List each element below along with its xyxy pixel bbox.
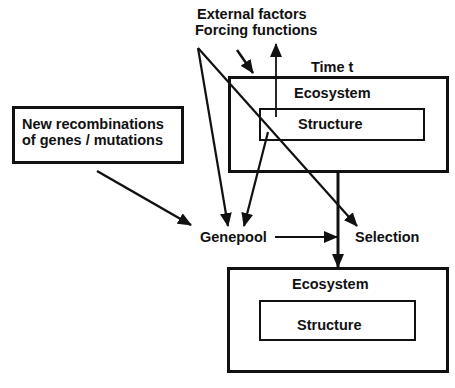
forcing-functions-label: Forcing functions (195, 22, 317, 38)
connector-lines (0, 0, 455, 388)
external-factors-label: External factors (197, 6, 307, 22)
structure-label-time-t: Structure (298, 116, 362, 132)
forcing-into-ecosystem-arrow (237, 50, 253, 73)
genepool-label: Genepool (200, 229, 267, 245)
recombination-line-1: New recombinations (22, 116, 164, 132)
structure-label-next: Structure (297, 317, 361, 333)
recombination-to-genepool-arrow (97, 171, 191, 225)
ecosystem-title-time-t: Ecosystem (294, 85, 371, 101)
time-t-label: Time t (311, 59, 353, 75)
selection-label: Selection (355, 229, 419, 245)
structure-to-genepool-arrow (244, 132, 268, 226)
external-to-genepool-arrow (198, 48, 228, 226)
ecosystem-title-next: Ecosystem (292, 276, 369, 292)
recombination-line-2: of genes / mutations (22, 132, 163, 148)
